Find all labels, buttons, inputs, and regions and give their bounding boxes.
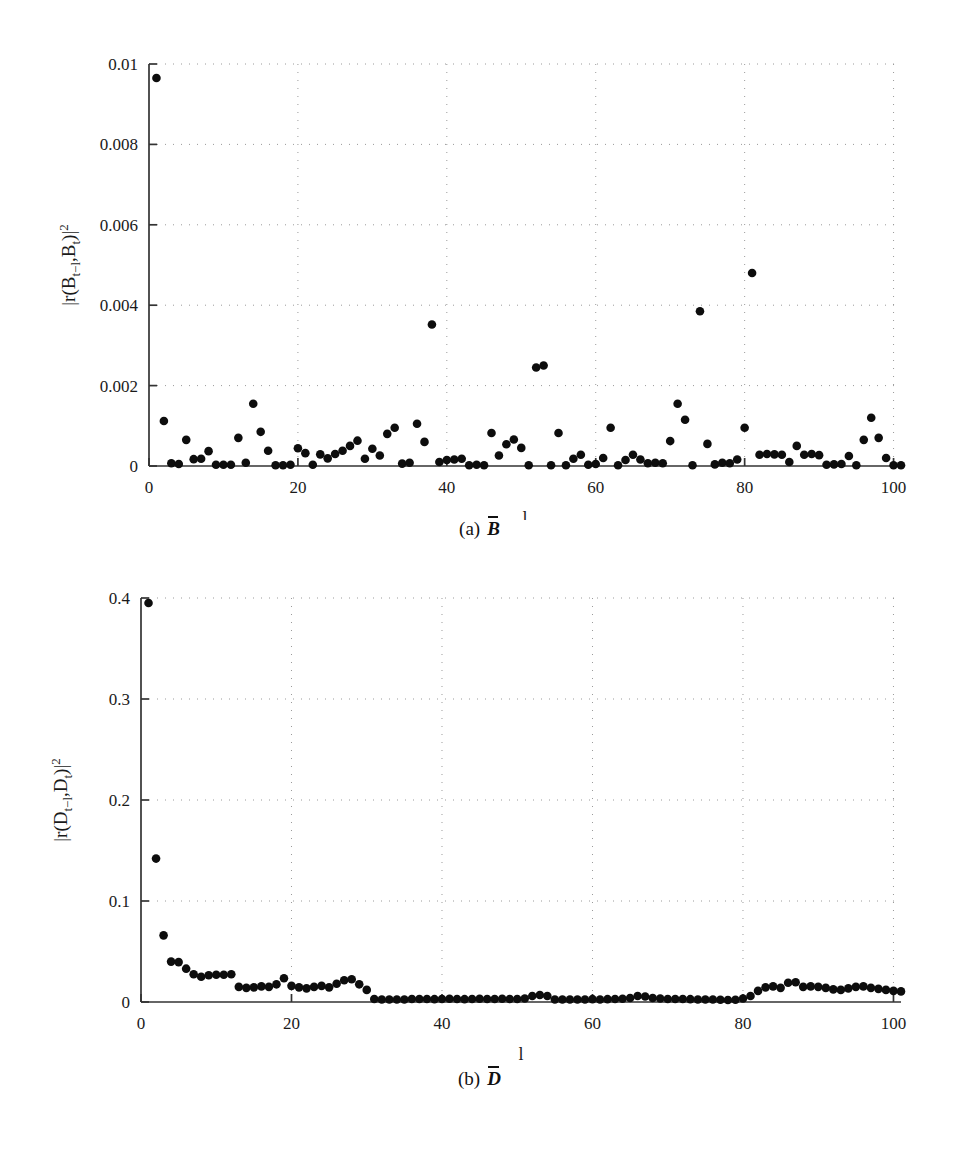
data-point <box>182 964 191 973</box>
data-point <box>302 984 311 993</box>
overbar-a <box>488 516 498 518</box>
data-point <box>897 987 906 996</box>
data-point <box>673 399 682 408</box>
data-point <box>398 459 407 468</box>
data-points <box>152 74 905 470</box>
data-point <box>453 995 462 1004</box>
data-point <box>731 995 740 1004</box>
data-point <box>746 992 755 1001</box>
data-point <box>845 452 854 461</box>
data-point <box>420 438 429 447</box>
data-point <box>633 992 642 1001</box>
data-point <box>618 994 627 1003</box>
data-point <box>626 994 635 1003</box>
data-point <box>644 459 653 468</box>
data-point <box>227 970 236 979</box>
data-point <box>413 419 422 428</box>
data-point <box>784 979 793 988</box>
data-point <box>852 461 861 470</box>
data-point <box>383 430 392 439</box>
data-point <box>629 450 638 459</box>
caption-a-label: (a) <box>459 518 480 539</box>
data-point <box>174 460 183 469</box>
data-point <box>769 982 778 991</box>
data-point <box>347 975 356 984</box>
axes <box>149 64 901 466</box>
data-point <box>510 435 519 444</box>
y-axis-title-text: |r(Dt−l,Dt)|2 <box>48 758 75 842</box>
data-point <box>703 440 712 449</box>
data-point <box>256 428 265 437</box>
data-points <box>144 599 905 1005</box>
data-point <box>475 994 484 1003</box>
data-point <box>740 424 749 433</box>
data-point <box>814 983 823 992</box>
data-point <box>517 444 526 453</box>
data-point <box>614 461 623 470</box>
caption-a-symbol: B <box>487 518 500 539</box>
panel-a: 00.0020.0040.0060.0080.01020406080100l|r… <box>0 0 959 520</box>
data-point <box>502 440 511 449</box>
data-point <box>569 454 578 463</box>
data-point <box>377 995 386 1004</box>
data-point <box>376 451 385 460</box>
data-point <box>718 458 727 467</box>
data-point <box>468 995 477 1004</box>
data-point <box>316 450 325 459</box>
data-point <box>450 455 459 464</box>
data-point <box>558 995 567 1004</box>
data-point <box>709 995 718 1004</box>
data-point <box>160 417 169 426</box>
data-point <box>844 984 853 993</box>
data-point <box>287 982 296 991</box>
data-point <box>636 455 645 464</box>
y-tick-label: 0.2 <box>109 791 130 810</box>
data-point <box>837 460 846 469</box>
data-point <box>428 320 437 329</box>
data-point <box>748 269 757 278</box>
data-point <box>323 454 332 463</box>
data-point <box>487 429 496 438</box>
y-tick-label: 0.008 <box>100 135 138 154</box>
data-point <box>532 363 541 372</box>
data-point <box>725 459 734 468</box>
data-point <box>874 434 883 443</box>
data-point <box>755 450 764 459</box>
data-point <box>716 995 725 1004</box>
data-point <box>791 978 800 987</box>
data-point <box>405 458 414 467</box>
data-point <box>167 459 176 468</box>
data-point <box>272 980 281 989</box>
data-point <box>603 995 612 1004</box>
y-axis-ticks: 00.10.20.30.4 <box>109 589 149 1012</box>
data-point <box>678 995 687 1004</box>
caption-b-symbol-text: D <box>487 1068 501 1089</box>
gridlines <box>141 598 901 1002</box>
caption-b-symbol: D <box>487 1068 501 1089</box>
data-point <box>483 995 492 1004</box>
x-tick-label: 80 <box>734 1014 751 1033</box>
data-point <box>520 994 529 1003</box>
data-point <box>197 972 206 981</box>
x-tick-label: 20 <box>289 478 306 497</box>
y-tick-label: 0.002 <box>100 377 138 396</box>
caption-b: (b)D <box>0 1068 959 1090</box>
x-tick-label: 80 <box>736 478 753 497</box>
data-point <box>524 461 533 470</box>
data-point <box>599 454 608 463</box>
data-point <box>688 461 697 470</box>
data-point <box>815 451 824 460</box>
y-tick-label: 0.1 <box>109 892 130 911</box>
y-axis-title: |r(Dt−l,Dt)|2 <box>48 758 75 842</box>
x-tick-label: 20 <box>283 1014 300 1033</box>
data-point <box>539 361 548 370</box>
data-point <box>696 307 705 316</box>
data-point <box>663 995 672 1004</box>
y-tick-label: 0.3 <box>109 690 130 709</box>
data-point <box>242 984 251 993</box>
data-point <box>301 449 310 458</box>
data-point <box>309 460 318 469</box>
data-point <box>513 995 522 1004</box>
data-point <box>152 854 161 863</box>
data-point <box>353 436 362 445</box>
